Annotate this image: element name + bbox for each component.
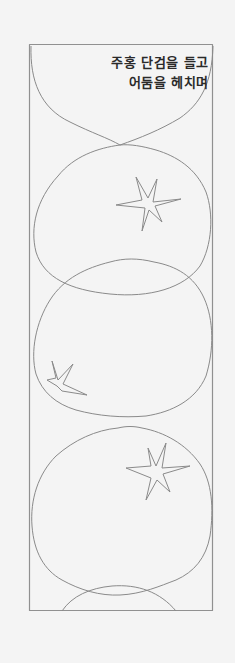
caption-line-2: 어둠을 헤치며 (111, 73, 209, 93)
caption-line-1: 주홍 단검을 들고 (111, 53, 209, 73)
star-icon (116, 177, 181, 231)
fruit-outline-3 (34, 259, 212, 417)
fruit-outline-5 (62, 586, 176, 611)
panel-frame (30, 45, 213, 611)
star-icon (126, 443, 190, 500)
caption: 주홍 단검을 들고 어둠을 헤치며 (111, 53, 209, 93)
illustration-panel (0, 0, 235, 663)
fruit-outline-4 (32, 427, 212, 596)
star-icon (47, 361, 87, 395)
fruit-outline-2 (34, 145, 211, 295)
